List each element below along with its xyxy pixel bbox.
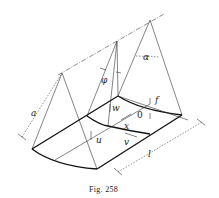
label-origin: 0 bbox=[137, 110, 143, 120]
label-phi: φ bbox=[101, 75, 108, 85]
radial-lines bbox=[32, 20, 182, 169]
shell-diagram: a φ α w f 0 x u v l Fig. 258 bbox=[0, 0, 219, 198]
label-l: l bbox=[148, 149, 151, 159]
label-x: x bbox=[124, 121, 129, 131]
label-a: a bbox=[31, 108, 36, 118]
x-arrow bbox=[121, 114, 131, 120]
cylinder-axis bbox=[58, 14, 164, 75]
label-u: u bbox=[96, 135, 102, 145]
label-v: v bbox=[124, 137, 129, 147]
dimension-a: a bbox=[18, 73, 62, 140]
label-f: f bbox=[154, 95, 160, 105]
angle-alpha: α bbox=[136, 52, 160, 62]
figure-caption: Fig. 258 bbox=[89, 185, 118, 194]
label-w: w bbox=[112, 103, 120, 113]
label-alpha: α bbox=[143, 52, 149, 62]
